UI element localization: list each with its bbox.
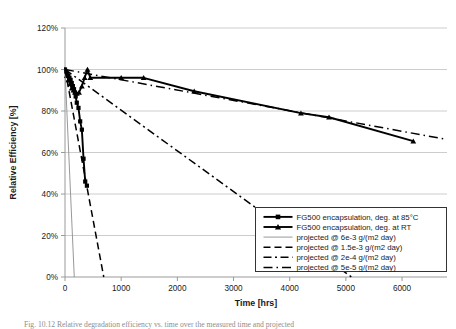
y-tick-label: 20%: [42, 232, 58, 241]
x-tick-label: 2000: [168, 284, 187, 293]
legend-label-4: projected @ 2e-4 g/(m2 day): [297, 253, 397, 262]
x-axis-title: Time [hrs]: [235, 298, 277, 308]
x-tick-label: 5000: [337, 284, 356, 293]
y-tick-label: 80%: [42, 107, 58, 116]
legend-label-1: FG500 encapsulation, deg. at RT: [297, 223, 412, 232]
x-tick-label: 3000: [224, 284, 243, 293]
figure-container: 0%20%40%60%80%100%120%010002000300040005…: [0, 0, 456, 329]
y-axis-title: Relative Efficiency [%]: [8, 106, 18, 200]
y-tick-label: 120%: [37, 24, 58, 33]
series-marker-square: [76, 106, 80, 110]
legend-label-3: projected @ 1.5e-3 g/(m2 day): [297, 243, 403, 252]
x-tick-label: 0: [63, 284, 68, 293]
efficiency-vs-time-chart: 0%20%40%60%80%100%120%010002000300040005…: [0, 0, 456, 329]
legend-label-5: projected @ 5e-5 g/(m2 day): [297, 263, 397, 272]
y-tick-label: 0%: [46, 273, 58, 282]
figure-caption: Fig. 10.12 Relative degradation efficien…: [24, 319, 444, 329]
x-tick-label: 4000: [281, 284, 300, 293]
legend-marker-square: [276, 215, 281, 220]
y-axis-ticks: 0%20%40%60%80%100%120%: [37, 24, 65, 282]
y-tick-label: 100%: [37, 66, 58, 75]
legend-label-0: FG500 encapsulation, deg. at 85°C: [297, 213, 419, 222]
x-tick-label: 1000: [112, 284, 131, 293]
legend-label-2: projected @ 6e-3 g/(m2 day): [297, 233, 397, 242]
series-marker-square: [78, 119, 82, 123]
y-tick-label: 60%: [42, 149, 58, 158]
chart-legend: FG500 encapsulation, deg. at 85°CFG500 e…: [256, 208, 447, 273]
x-axis-ticks: 0100020003000400050006000: [63, 277, 412, 293]
y-tick-label: 40%: [42, 190, 58, 199]
series-marker-square: [75, 101, 79, 105]
series-marker-square: [80, 128, 84, 132]
x-tick-label: 6000: [393, 284, 412, 293]
